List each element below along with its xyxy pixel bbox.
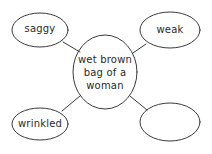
- connector-saggy: [63, 42, 80, 52]
- node-weak-label: weak: [156, 24, 183, 36]
- connector-wrinkled: [62, 96, 80, 111]
- node-empty-ellipse: [140, 103, 200, 141]
- center-line-2: bag of a: [77, 66, 133, 79]
- center-line-1: wet brown: [77, 53, 133, 66]
- node-saggy-label: saggy: [25, 23, 56, 35]
- node-wrinkled-label: wrinkled: [18, 118, 62, 130]
- connector-empty: [130, 96, 147, 110]
- center-node-label: wet brown bag of a woman: [77, 53, 133, 92]
- center-line-3: woman: [77, 79, 133, 92]
- connector-weak: [133, 44, 146, 53]
